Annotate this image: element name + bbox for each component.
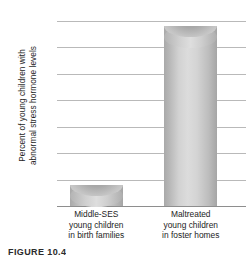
gridline-10 (57, 153, 246, 154)
gridline-25 (57, 74, 246, 75)
x-category-label-0: Middle-SES young children in birth famil… (51, 209, 141, 241)
gridline-15 (57, 127, 246, 128)
y-axis-title: Percent of young children with abnormal … (17, 11, 38, 201)
bar-top-ellipse-1 (164, 26, 217, 48)
gridline-5 (57, 180, 246, 181)
x-axis-category-labels: Middle-SES young children in birth famil… (57, 209, 246, 243)
plot-area: 05101520253035 (57, 21, 246, 206)
x-category-label-1: Maltreated young children in foster home… (146, 209, 236, 241)
bar-1 (164, 26, 217, 206)
bar-0 (70, 185, 123, 206)
figure-caption: FIGURE 10.4 (8, 247, 66, 256)
gridline-35 (57, 21, 246, 22)
gridline-30 (57, 47, 246, 48)
gridline-20 (57, 100, 246, 101)
bar-top-ellipse-0 (70, 185, 123, 207)
figure-container: Percent of young children with abnormal … (0, 0, 250, 256)
